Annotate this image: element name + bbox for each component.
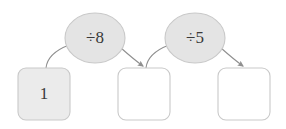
operation-bubble-1-label: ÷8 — [86, 28, 104, 47]
value-box-3[interactable] — [218, 68, 270, 120]
function-machine-diagram: 1 ÷8 ÷5 — [0, 0, 286, 129]
value-box-2-shape[interactable] — [118, 68, 170, 120]
value-box-2[interactable] — [118, 68, 170, 120]
operation-bubble-2-label: ÷5 — [186, 28, 204, 47]
value-box-1[interactable]: 1 — [18, 68, 70, 120]
operation-bubble-1[interactable]: ÷8 — [65, 13, 125, 63]
box-group: 1 — [18, 68, 270, 120]
operation-bubble-2[interactable]: ÷5 — [165, 13, 225, 63]
value-box-1-label: 1 — [40, 84, 49, 103]
arrow-op1-to-box2 — [121, 48, 143, 66]
arrow-box1-to-op1 — [46, 45, 69, 68]
arrow-op2-to-box3 — [221, 48, 243, 66]
arrow-box2-to-op2 — [146, 45, 169, 68]
value-box-3-shape[interactable] — [218, 68, 270, 120]
operation-group: ÷8 ÷5 — [65, 13, 225, 63]
flow-diagram-svg: 1 ÷8 ÷5 — [0, 0, 286, 129]
